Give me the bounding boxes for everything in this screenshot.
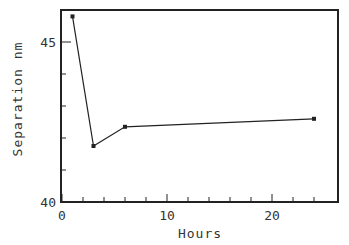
data-series xyxy=(71,14,317,148)
data-point-marker xyxy=(92,144,96,148)
x-tick-label-0: 0 xyxy=(58,208,66,223)
y-tick-label-45: 45 xyxy=(40,35,56,50)
series-line xyxy=(73,16,315,146)
y-tick-label-40: 40 xyxy=(40,195,56,210)
data-point-marker xyxy=(71,14,75,18)
plot-border xyxy=(61,10,338,202)
y-axis-ticks xyxy=(61,42,71,170)
data-point-marker xyxy=(123,125,127,129)
data-point-marker xyxy=(312,117,316,121)
x-axis-tick-labels: 0 10 20 xyxy=(58,208,280,223)
plot-frame xyxy=(61,10,338,202)
x-axis-label: Hours xyxy=(178,226,222,241)
y-axis-label: Separation nm xyxy=(10,42,25,157)
x-axis-ticks xyxy=(62,194,314,202)
y-axis-tick-labels: 45 40 xyxy=(40,35,56,210)
line-chart: 0 10 20 45 40 Hours Separation nm xyxy=(0,0,349,245)
x-tick-label-10: 10 xyxy=(159,208,175,223)
x-tick-label-20: 20 xyxy=(264,208,280,223)
